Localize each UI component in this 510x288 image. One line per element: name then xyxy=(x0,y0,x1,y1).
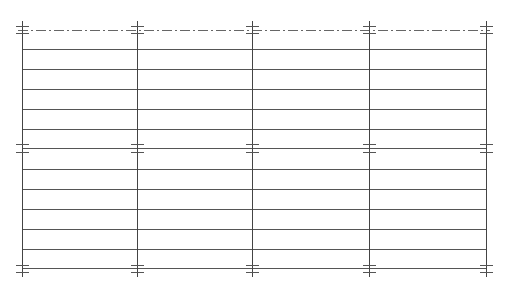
grid-plan-drawing xyxy=(0,0,510,288)
cad-drawing-canvas xyxy=(0,0,510,288)
axis-tick-marks xyxy=(16,27,493,273)
horizontal-grid-lines xyxy=(22,50,486,269)
